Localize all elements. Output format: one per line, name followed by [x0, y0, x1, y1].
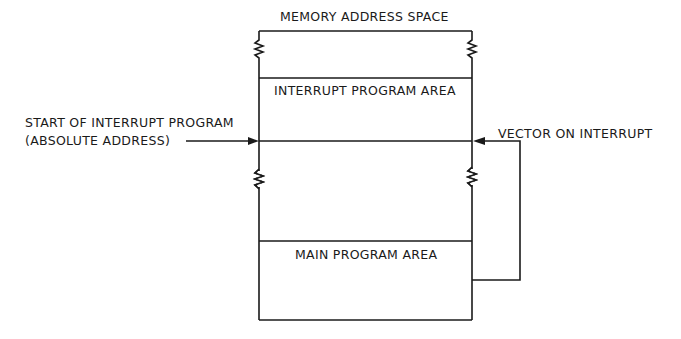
start-interrupt-label-line1: START OF INTERRUPT PROGRAM [25, 116, 234, 130]
memory-space-title: MEMORY ADDRESS SPACE [280, 10, 449, 24]
vector-on-interrupt-label: VECTOR ON INTERRUPT [498, 127, 652, 141]
arrowhead-left-icon [248, 137, 259, 145]
right-break-zigzag-top [468, 31, 476, 280]
arrowhead-right-icon [473, 137, 485, 145]
memory-map-diagram [0, 0, 681, 339]
start-interrupt-label-line2: (ABSOLUTE ADDRESS) [25, 134, 170, 148]
main-area-label: MAIN PROGRAM AREA [295, 248, 437, 262]
interrupt-area-label: INTERRUPT PROGRAM AREA [274, 84, 456, 98]
vector-feedback-loop [472, 141, 520, 280]
